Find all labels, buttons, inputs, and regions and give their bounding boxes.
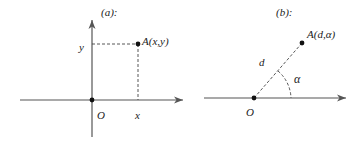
angle-arc bbox=[278, 71, 291, 98]
panel-a-cartesian: (a): A(x,y) y O x bbox=[20, 6, 183, 137]
angle-label: α bbox=[294, 72, 301, 86]
origin-point bbox=[90, 98, 95, 103]
point-a bbox=[136, 42, 141, 47]
distance-label: d bbox=[259, 56, 265, 68]
origin-label: O bbox=[97, 109, 105, 121]
point-a bbox=[300, 41, 305, 46]
panel-b-title: (b): bbox=[276, 6, 293, 19]
point-a-label: A(d,α) bbox=[306, 28, 335, 41]
panel-b-polar: (b): A(d,α) d α O bbox=[204, 6, 346, 118]
pole-point bbox=[252, 96, 257, 101]
radius-line bbox=[254, 43, 302, 98]
y-label: y bbox=[78, 41, 84, 53]
coordinate-diagrams: (a): A(x,y) y O x (b): A(d,α) d α O bbox=[0, 0, 364, 149]
panel-a-title: (a): bbox=[101, 6, 118, 19]
x-label: x bbox=[134, 109, 140, 121]
point-a-label: A(x,y) bbox=[141, 35, 169, 48]
origin-label: O bbox=[246, 106, 254, 118]
